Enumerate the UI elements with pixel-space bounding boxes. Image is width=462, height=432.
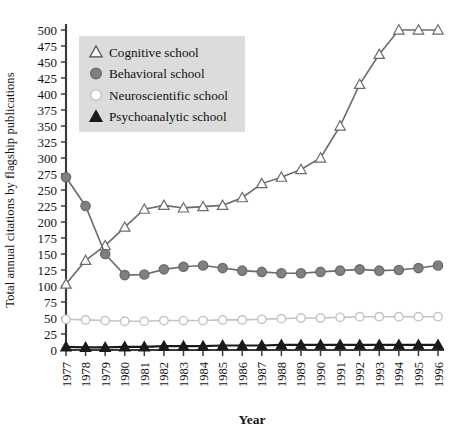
y-tick-label: 425 [38,71,58,86]
y-tick-label: 325 [38,135,58,150]
data-point-marker [433,261,442,270]
x-tick-label: 1985 [216,362,230,387]
x-tick-label: 1994 [392,361,406,387]
y-tick-label: 150 [38,247,58,262]
y-tick-label: 50 [44,311,57,326]
y-tick-label: 175 [38,231,58,246]
legend-item-label: Neuroscientific school [109,88,228,103]
data-point-marker [336,313,344,321]
data-point-marker [354,79,364,88]
data-point-marker [257,267,266,276]
x-tick-label: 1983 [177,362,191,387]
x-tick-label: 1987 [255,362,269,387]
x-tick-label: 1978 [79,362,93,387]
data-point-marker [335,121,345,130]
y-tick-label: 500 [38,23,58,38]
y-axis-title: Total annual citations by flagship publi… [3,72,17,307]
chart-canvas: 0255075100125150175200225250275300325350… [0,0,462,432]
data-point-marker [414,263,423,272]
data-point-marker [316,267,325,276]
x-axis-title: Year [239,412,266,427]
x-tick-label: 1986 [236,362,250,387]
y-tick-label: 475 [38,39,58,54]
x-tick-label: 1980 [118,362,132,387]
data-point-marker [81,316,89,324]
data-point-marker [315,153,325,162]
series-behavioral-school [61,173,442,280]
data-point-marker [277,314,285,322]
data-point-marker [297,314,305,322]
legend-marker [91,68,102,79]
legend-item-label: Behavioral school [109,66,205,81]
chart-legend: Cognitive schoolBehavioral schoolNeurosc… [79,36,245,132]
legend-marker [91,90,102,101]
x-tick-label: 1991 [334,362,348,387]
data-point-marker [159,200,169,209]
x-tick-label: 1977 [60,362,74,387]
data-point-marker [199,316,207,324]
data-point-marker [355,313,363,321]
y-tick-label: 275 [38,167,58,182]
data-point-marker [375,266,384,275]
x-tick-label: 1990 [314,362,328,387]
y-tick-label: 200 [38,215,58,230]
data-point-marker [140,317,148,325]
data-point-marker [316,314,324,322]
data-point-marker [179,316,187,324]
y-tick-label: 125 [38,263,58,278]
data-point-marker [80,255,90,264]
x-tick-label: 1996 [432,362,446,387]
data-point-marker [237,192,247,201]
data-point-marker [395,313,403,321]
data-point-marker [121,317,129,325]
x-tick-label: 1988 [275,362,289,387]
data-point-marker [179,262,188,271]
series-neuroscientific-school [62,313,442,326]
data-point-marker [160,316,168,324]
y-tick-label: 450 [38,55,58,70]
x-tick-label: 1995 [412,362,426,387]
x-tick-label: 1992 [353,362,367,387]
data-point-marker [296,164,306,173]
y-tick-label: 350 [38,119,58,134]
y-tick-label: 100 [38,279,58,294]
y-tick-label: 0 [51,343,58,358]
data-point-marker [296,269,305,278]
data-point-marker [238,316,246,324]
y-tick-label: 25 [44,327,57,342]
data-point-marker [258,315,266,323]
legend-item-label: Cognitive school [109,45,199,60]
y-tick-label: 250 [38,183,58,198]
x-tick-label: 1981 [138,362,152,387]
data-point-marker [218,316,226,324]
data-point-marker [336,266,345,275]
y-tick-label: 225 [38,199,58,214]
data-point-marker [198,261,207,270]
legend-item-2[interactable]: Neuroscientific school [91,88,229,103]
citations-line-chart: 0255075100125150175200225250275300325350… [0,0,462,432]
data-point-marker [277,269,286,278]
data-point-marker [238,266,247,275]
y-tick-label: 75 [44,295,57,310]
legend-item-label: Psychoanalytic school [109,109,227,124]
data-point-marker [218,263,227,272]
y-tick-label: 300 [38,151,58,166]
data-point-marker [61,173,70,182]
x-tick-label: 1993 [373,362,387,387]
data-point-marker [159,265,168,274]
y-tick-label: 375 [38,103,58,118]
data-point-marker [120,271,129,280]
data-point-marker [375,313,383,321]
data-point-marker [414,313,422,321]
data-point-marker [434,313,442,321]
data-point-marker [101,249,110,258]
x-tick-label: 1982 [157,362,171,387]
legend-item-3[interactable]: Psychoanalytic school [90,109,227,124]
x-tick-label: 1984 [197,361,211,387]
x-tick-label: 1979 [99,362,113,387]
data-point-marker [81,201,90,210]
x-tick-label: 1989 [294,362,308,387]
data-point-marker [355,265,364,274]
data-point-marker [101,316,109,324]
data-point-marker [62,315,70,323]
